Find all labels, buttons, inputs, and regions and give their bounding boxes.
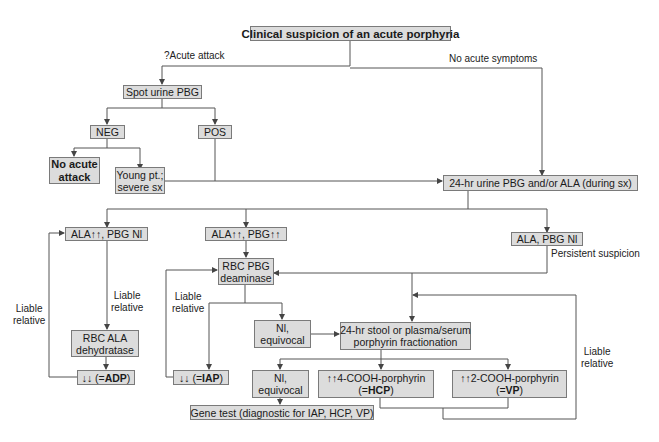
node-text-line2: (=HCP) <box>358 384 393 396</box>
node-rbc-ala-dehydratase: RBC ALA dehydratase <box>71 330 139 357</box>
node-text: Nl, <box>276 322 289 334</box>
label-liable-relative-inner-left: Liable relative <box>111 290 143 314</box>
node-text: ) <box>127 372 131 384</box>
node-text-bold: VP <box>506 384 520 396</box>
title-text: Clinical suspicion of an acute porphyria <box>242 28 460 40</box>
node-text: ALA↑↑, PBG↑↑ <box>212 228 281 240</box>
node-text: Nl, <box>274 372 287 384</box>
node-text: ) <box>520 384 524 396</box>
node-hcp: ↑↑4-COOH-porphyrin (=HCP) <box>318 370 434 398</box>
label-text: Liable <box>175 291 202 302</box>
node-text: equivocal <box>258 384 302 396</box>
node-vp: ↑↑2-COOH-porphyrin (=VP) <box>452 370 567 398</box>
node-text-bold: IAP <box>202 372 220 384</box>
node-ala-pbg-nl: ALA, PBG Nl <box>511 232 583 246</box>
node-text: Young pt.; <box>117 169 164 181</box>
node-text: ALA↑↑, PBG Nl <box>71 228 142 240</box>
node-text: (= <box>496 384 506 396</box>
label-text: Liable <box>584 346 611 357</box>
node-text: POS <box>204 126 226 138</box>
node-pos: POS <box>198 125 232 139</box>
node-text: ↑↑4-COOH-porphyrin <box>327 372 426 384</box>
node-gene-test: Gene test (diagnostic for IAP, HCP, VP) <box>190 405 374 420</box>
node-spot-urine-pbg: Spot urine PBG <box>123 85 202 99</box>
node-text: ) <box>390 384 394 396</box>
node-text: ALA, PBG Nl <box>517 233 578 245</box>
label-text: Liable <box>16 303 43 314</box>
node-text: 24-hr stool or plasma/serum <box>340 324 471 336</box>
node-text: ) <box>220 372 224 384</box>
node-no-acute-attack: No acute attack <box>49 157 100 184</box>
node-text: ↓↓ (= <box>179 372 202 384</box>
node-ala-up-pbg-up: ALA↑↑, PBG↑↑ <box>205 227 287 241</box>
label-liable-relative-right: Liable relative <box>581 346 613 370</box>
label-acute-attack: ?Acute attack <box>164 50 225 62</box>
node-text: attack <box>59 171 91 184</box>
node-text: 24-hr urine PBG and/or ALA (during sx) <box>449 177 632 189</box>
node-text: equivocal <box>260 334 304 346</box>
node-text-line2: (=VP) <box>496 384 523 396</box>
node-nl-equivocal-lower: Nl, equivocal <box>252 370 309 398</box>
node-young-pt-severe-sx: Young pt.; severe sx <box>115 167 165 194</box>
label-text: Liable <box>114 290 141 301</box>
label-text: relative <box>13 315 45 326</box>
label-text: relative <box>581 358 613 369</box>
title-box: Clinical suspicion of an acute porphyria <box>250 26 451 41</box>
node-ala-up-pbg-nl: ALA↑↑, PBG Nl <box>65 227 148 241</box>
node-24hr-stool-fractionation: 24-hr stool or plasma/serum porphyrin fr… <box>340 322 471 350</box>
node-text: porphyrin fractionation <box>354 336 458 348</box>
node-neg: NEG <box>90 125 125 139</box>
label-liable-relative-mid: Liable relative <box>172 291 204 315</box>
node-text: RBC PBG <box>222 260 269 272</box>
node-text: ↑↑2-COOH-porphyrin <box>460 372 559 384</box>
node-text: NEG <box>96 126 119 138</box>
node-adp: ↓↓ (=ADP) <box>77 370 135 385</box>
node-24hr-urine: 24-hr urine PBG and/or ALA (during sx) <box>443 175 638 191</box>
node-text: ↓↓ (= <box>82 372 105 384</box>
node-text: deaminase <box>220 272 271 284</box>
node-text: Gene test (diagnostic for IAP, HCP, VP) <box>191 407 374 419</box>
node-text: dehydratase <box>76 344 134 356</box>
node-text: No acute <box>51 158 97 171</box>
label-text: relative <box>172 303 204 314</box>
label-text: relative <box>111 302 143 313</box>
node-iap: ↓↓ (=IAP) <box>173 370 229 385</box>
node-nl-equivocal-upper: Nl, equivocal <box>254 320 311 348</box>
node-text: RBC ALA <box>83 332 127 344</box>
flowchart-canvas: Clinical suspicion of an acute porphyria… <box>0 0 659 442</box>
node-rbc-pbg-deaminase: RBC PBG deaminase <box>218 258 274 285</box>
node-text: (= <box>358 384 368 396</box>
node-text: Spot urine PBG <box>126 86 199 98</box>
label-persistent-suspicion: Persistent suspicion <box>551 248 640 260</box>
label-liable-relative-outer-left: Liable relative <box>13 303 45 327</box>
node-text: severe sx <box>118 181 163 193</box>
node-text-bold: HCP <box>368 384 390 396</box>
node-text-bold: ADP <box>105 372 127 384</box>
label-no-acute-symptoms: No acute symptoms <box>449 53 537 65</box>
